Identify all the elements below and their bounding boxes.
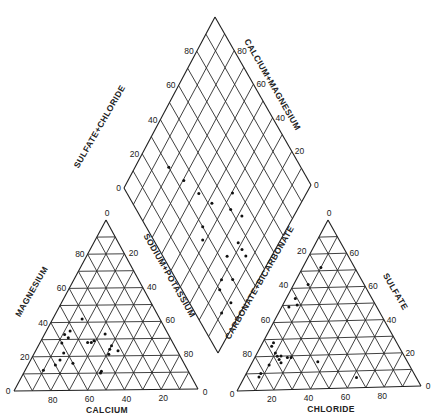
cation-triangle-grid xyxy=(32,237,115,391)
anion-point xyxy=(280,355,283,358)
cation-triangle-grid xyxy=(23,374,32,391)
calcium-magnesium-tick: 0 xyxy=(314,180,319,190)
sodium-potassium-tick: 60 xyxy=(165,315,175,325)
calcium-tick: 40 xyxy=(122,394,132,404)
cation-point xyxy=(93,339,96,342)
carbonate-tick: 80 xyxy=(242,349,252,359)
diamond-point xyxy=(220,278,223,281)
magnesium-tick: 40 xyxy=(38,318,48,328)
sulfate-chloride-tick: 40 xyxy=(148,115,158,125)
anion-triangle-grid xyxy=(273,320,383,323)
chloride-tick: 60 xyxy=(341,392,351,402)
cation-triangle-grid xyxy=(69,288,143,289)
cation-point xyxy=(104,332,107,335)
anion-point xyxy=(316,360,319,363)
diamond-point xyxy=(240,215,243,218)
cation-point xyxy=(107,353,110,356)
sulfate-tick: 40 xyxy=(387,315,397,325)
diamond-point xyxy=(231,278,234,281)
cation-triangle-grid xyxy=(51,321,161,322)
diamond-point xyxy=(229,301,232,304)
chloride-tick: 40 xyxy=(304,393,314,403)
anion-point xyxy=(280,361,283,364)
sulfate-tick: 20 xyxy=(405,348,415,358)
cation-triangle-grid xyxy=(106,305,152,391)
anion-point xyxy=(272,341,275,344)
diamond-left-axis-title: SULFATE+CHLORIDE xyxy=(72,83,128,169)
calcium-tick: 80 xyxy=(48,395,58,405)
sodium-potassium-tick: 40 xyxy=(147,282,157,292)
cation-point xyxy=(117,349,120,352)
diamond-point xyxy=(167,166,170,169)
sulfate-chloride-tick: 60 xyxy=(166,80,176,90)
diamond-grid xyxy=(152,67,244,237)
anion-point xyxy=(286,356,289,359)
diamond-grid xyxy=(179,85,274,252)
cation-point xyxy=(71,362,74,365)
anion-point xyxy=(319,266,322,269)
sodium-potassium-tick: 20 xyxy=(129,248,139,258)
cation-triangle-grid xyxy=(23,372,189,374)
carbonate-tick: 40 xyxy=(279,280,289,290)
anion-triangle-grid xyxy=(310,253,347,254)
anion-triangle-grid xyxy=(319,237,337,238)
carbonate-tick: 60 xyxy=(261,315,271,325)
diamond-grid xyxy=(162,84,254,254)
diamond-point xyxy=(182,179,185,182)
sulfate-tick: 60 xyxy=(368,281,378,291)
anion-point xyxy=(296,304,299,307)
corner-zero: 0 xyxy=(426,381,431,391)
cation-calcium-title: CALCIUM xyxy=(86,405,128,415)
sulfate-tick: 60 xyxy=(350,248,360,258)
cation-point xyxy=(90,341,93,344)
anion-triangle-grid xyxy=(246,369,412,374)
anion-point xyxy=(268,363,271,366)
cation-point xyxy=(63,333,66,336)
anion-sulfate-title: SULFATE xyxy=(381,271,410,311)
diamond-point xyxy=(231,191,234,194)
anion-point xyxy=(287,306,290,309)
grid-lines xyxy=(14,17,421,391)
calcium-magnesium-tick: 20 xyxy=(295,146,305,156)
cation-point xyxy=(54,364,57,367)
diamond-point xyxy=(229,208,232,211)
sulfate-chloride-tick: 0 xyxy=(116,183,121,193)
cation-point xyxy=(67,336,70,339)
anion-triangle-grid xyxy=(246,374,255,391)
diamond-point xyxy=(241,248,244,251)
calcium-magnesium-tick: 40 xyxy=(276,113,286,123)
cation-triangle-grid xyxy=(78,271,142,389)
calcium-tick: 20 xyxy=(158,393,168,403)
anion-triangle-grid xyxy=(301,270,356,272)
chloride-tick: 20 xyxy=(267,394,277,404)
corner-zero: 0 xyxy=(203,387,208,397)
anion-triangle-grid xyxy=(319,237,403,386)
anion-point xyxy=(294,297,297,300)
chloride-tick: 80 xyxy=(377,391,387,401)
corner-zero: 0 xyxy=(105,208,110,218)
anion-triangle-grid xyxy=(403,369,412,386)
diamond-point xyxy=(226,255,229,258)
anion-point xyxy=(307,283,310,286)
cation-point xyxy=(86,341,89,344)
anion-chloride-title: CHLORIDE xyxy=(307,404,355,414)
cation-triangle-grid xyxy=(78,271,133,272)
cation-point xyxy=(110,344,113,347)
cation-magnesium-title: MAGNESIUM xyxy=(13,265,50,319)
diamond-point xyxy=(218,288,221,291)
cation-point xyxy=(59,358,62,361)
diamond-grid xyxy=(188,68,283,235)
anion-point xyxy=(276,355,279,358)
diamond-point xyxy=(220,312,223,315)
magnesium-tick: 80 xyxy=(75,249,85,259)
carbonate-tick: 20 xyxy=(297,246,307,256)
cation-sodium-potassium-title: SODIUM+POTASSIUM xyxy=(141,232,197,320)
cation-point xyxy=(60,341,63,344)
sulfate-chloride-tick: 20 xyxy=(130,149,140,159)
cation-point xyxy=(100,370,103,373)
anion-point xyxy=(258,375,261,378)
data-points xyxy=(42,166,358,379)
diamond-point xyxy=(244,255,247,258)
diamond-point xyxy=(201,225,204,228)
sulfate-chloride-tick: 80 xyxy=(184,46,194,56)
